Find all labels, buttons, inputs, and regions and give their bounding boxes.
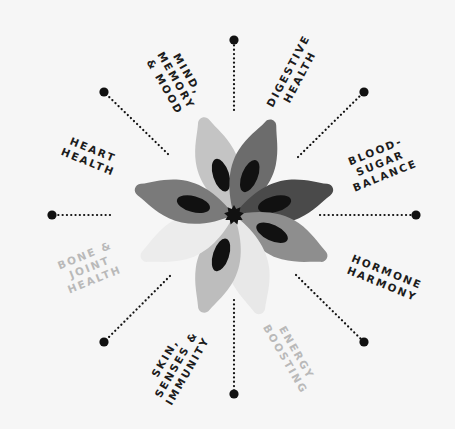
spoke-end-dot-left — [47, 210, 56, 219]
spoke-bottom-right — [296, 275, 364, 342]
spoke-top-right — [298, 92, 364, 157]
spoke-end-dot-right — [411, 210, 420, 219]
spoke-end-dot-top-left — [99, 87, 108, 96]
spoke-end-dot-bottom — [229, 389, 238, 398]
spoke-top-left — [104, 92, 168, 154]
wellness-diagram: MIND, MEMORY & MOOD DIGESTIVE HEALTH BLO… — [0, 0, 455, 429]
spoke-end-dot-bottom-right — [359, 337, 368, 346]
spoke-bottom-left — [104, 276, 170, 342]
spoke-end-dot-top — [229, 35, 238, 44]
spoke-end-dot-top-right — [359, 87, 368, 96]
spoke-end-dot-bottom-left — [99, 337, 108, 346]
flower-diagram-graphic — [0, 0, 455, 429]
